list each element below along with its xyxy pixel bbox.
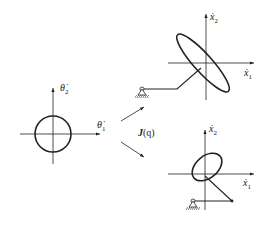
diagram-graphics <box>0 0 264 227</box>
x1-label-bottom: ẋ1 <box>243 178 251 191</box>
x1-label-top: ẋ1 <box>244 68 252 81</box>
manipulability-diagram: θ̇2 θ̇1 J(q) ẋ2 ẋ1 ẋ2 ẋ1 <box>0 0 264 227</box>
ground-support-bottom <box>189 201 197 207</box>
task-space-top-plot <box>135 14 254 100</box>
theta1-label: θ̇1 <box>97 120 105 133</box>
arrow-to-top <box>121 107 144 121</box>
arm-links-bottom <box>193 176 232 201</box>
theta2-label: θ̇2 <box>60 83 68 96</box>
jacobian-label: J(q) <box>138 127 155 138</box>
elbow-joint-bottom <box>231 200 234 203</box>
arm-links-top <box>142 68 201 89</box>
ground-hatch-bottom <box>186 207 200 210</box>
x2-label-bottom: ẋ2 <box>209 124 217 137</box>
x2-label-top: ẋ2 <box>210 12 218 25</box>
arrow-to-bottom <box>121 142 144 157</box>
task-space-bottom-plot <box>168 130 254 210</box>
ground-support-top <box>138 89 146 95</box>
ground-hatch-top <box>135 95 149 98</box>
joint-space-plot <box>20 88 100 164</box>
velocity-ellipse-bottom <box>187 148 227 187</box>
